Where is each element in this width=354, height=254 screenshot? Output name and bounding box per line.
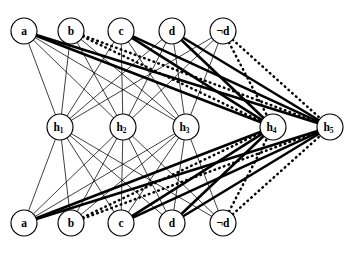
edge-b_c-to-h2	[121, 140, 122, 210]
node-b_c[interactable]: c	[108, 210, 134, 236]
network-graph-canvas: abcd¬dh1h2h3h4h5abcd¬d	[0, 0, 354, 254]
network-diagram: abcd¬dh1h2h3h4h5abcd¬d	[0, 0, 354, 254]
node-t_nd[interactable]: ¬d	[210, 18, 236, 44]
node-b_d[interactable]: d	[159, 210, 185, 236]
node-label-b_d: d	[169, 216, 176, 228]
node-b_nd[interactable]: ¬d	[210, 210, 236, 236]
edge-b_a-to-h1	[29, 139, 56, 211]
node-label-b_a: a	[21, 216, 27, 228]
edge-t_nd-to-h1	[71, 38, 212, 121]
nodes-layer: abcd¬dh1h2h3h4h5abcd¬d	[11, 18, 343, 236]
node-label-t_d: d	[169, 24, 176, 36]
node-h5[interactable]: h5	[317, 114, 343, 140]
edge-t_b-to-h1	[61, 44, 69, 114]
node-b_b[interactable]: b	[58, 210, 84, 236]
node-h3[interactable]: h3	[173, 114, 199, 140]
node-label-t_c: c	[118, 24, 123, 36]
node-label-t_a: a	[21, 24, 27, 36]
edge-b_a-to-h5	[36, 131, 317, 219]
edge-b_nd-to-h1	[71, 134, 212, 217]
node-t_d[interactable]: d	[159, 18, 185, 44]
node-label-t_b: b	[68, 24, 74, 36]
node-label-b_nd: ¬d	[217, 216, 231, 228]
edge-t_a-to-h1	[29, 43, 56, 115]
edge-b_b-to-h1	[61, 140, 69, 210]
node-t_b[interactable]: b	[58, 18, 84, 44]
node-b_a[interactable]: a	[11, 210, 37, 236]
edge-t_a-to-h5	[36, 35, 317, 123]
node-label-b_c: c	[118, 216, 123, 228]
node-label-b_b: b	[68, 216, 74, 228]
node-h4[interactable]: h4	[260, 114, 286, 140]
node-h2[interactable]: h2	[110, 114, 136, 140]
node-t_a[interactable]: a	[11, 18, 37, 44]
node-h1[interactable]: h1	[47, 114, 73, 140]
edge-t_c-to-h2	[121, 44, 122, 114]
node-t_c[interactable]: c	[108, 18, 134, 44]
node-label-t_nd: ¬d	[217, 24, 231, 36]
